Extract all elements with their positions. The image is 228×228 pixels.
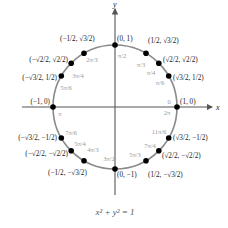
angle-label-180: π — [58, 110, 62, 117]
y-axis-label: y — [112, 0, 117, 9]
angle-label-300: 5π/3 — [129, 151, 141, 158]
point-225 — [68, 148, 74, 154]
coord-label-180: (−1, 0) — [30, 98, 50, 106]
angle-label-90: π/2 — [118, 52, 126, 59]
point-150 — [59, 73, 65, 79]
angle-label-0: 0 — [167, 98, 170, 105]
point-210 — [59, 135, 65, 141]
coord-label-120: (−1/2, √3/2) — [60, 35, 95, 43]
coord-label-240: (−1/2, −√3/2) — [48, 169, 87, 177]
angle-label-225: 5π/4 — [74, 140, 86, 147]
angle-label-60: π/3 — [137, 61, 145, 68]
angle-label-45: π/4 — [147, 69, 156, 76]
angle-label-330: 11π/6 — [152, 128, 167, 135]
coord-label-300: (1/2, −√3/2) — [148, 171, 183, 179]
x-axis-label: x — [215, 103, 220, 112]
angle-label-2pi: 2π — [164, 109, 171, 116]
point-0 — [174, 104, 180, 110]
angle-label-150: 5π/6 — [60, 84, 72, 91]
coord-label-315: (√2/2, −√2/2) — [162, 152, 201, 160]
coord-label-330: (√3/2, −1/2) — [173, 134, 208, 142]
coord-label-225: (−√2/2, −√2/2) — [25, 150, 68, 158]
unit-circle-diagram: x y (1, 0) (√3/2, 1/2) (√2/2, √2/2) (1/2… — [0, 0, 228, 228]
point-180 — [50, 104, 56, 110]
angle-label-210: 7π/6 — [65, 129, 77, 136]
angle-label-135: 3π/4 — [72, 72, 84, 79]
point-90 — [112, 42, 118, 48]
coord-label-30: (√3/2, 1/2) — [173, 74, 204, 82]
angle-label-240: 4π/3 — [87, 146, 99, 153]
coord-label-270: (0, −1) — [117, 171, 137, 179]
point-135 — [68, 60, 74, 66]
point-300 — [143, 158, 149, 164]
coord-label-60: (1/2, √3/2) — [148, 37, 179, 45]
coord-label-210: (−√3/2, −1/2) — [18, 134, 57, 142]
angle-label-270: 3π/2 — [103, 155, 115, 162]
angle-label-30: π/6 — [156, 79, 165, 86]
point-330 — [166, 135, 172, 141]
coord-label-135: (−√2/2, √2/2) — [29, 56, 68, 64]
angle-label-120: 2π/3 — [86, 56, 98, 63]
coord-label-150: (−√3/2, 1/2) — [22, 74, 57, 82]
equation-label: x² + y² = 1 — [94, 207, 134, 217]
point-315 — [156, 148, 162, 154]
coord-label-90: (0, 1) — [117, 35, 133, 43]
point-240 — [81, 158, 87, 164]
coord-label-45: (√2/2, √2/2) — [163, 56, 198, 64]
point-45 — [156, 60, 162, 66]
point-60 — [143, 51, 149, 57]
angle-label-315: 7π/4 — [144, 142, 156, 149]
point-30 — [166, 73, 172, 79]
coord-label-0: (1, 0) — [180, 98, 196, 106]
